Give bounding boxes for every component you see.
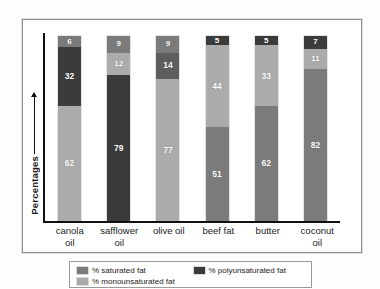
bar-slot: 71182 <box>291 36 340 221</box>
x-axis-label: butter <box>243 225 293 249</box>
bar-slot: 54451 <box>193 36 242 221</box>
legend-label: % monounsaturated fat <box>92 277 175 286</box>
bar-segment[interactable]: 5 <box>206 36 229 45</box>
bar-segment-value: 79 <box>114 144 123 153</box>
bar-segment[interactable]: 79 <box>107 75 130 221</box>
stacked-bar[interactable]: 91477 <box>156 36 179 221</box>
bar-segment[interactable]: 33 <box>255 45 278 106</box>
bar-group: 632629127991477544515336271182 <box>45 36 340 221</box>
x-axis-label: canola oil <box>45 225 95 249</box>
legend-swatch <box>77 267 88 274</box>
bar-slot: 63262 <box>45 36 94 221</box>
bar-segment-value: 9 <box>117 40 121 48</box>
bar-segment-value: 82 <box>311 141 320 150</box>
legend-swatch <box>194 267 205 274</box>
bar-segment[interactable]: 44 <box>206 45 229 126</box>
plot-area: 632629127991477544515336271182 <box>43 33 340 223</box>
x-axis-line <box>43 221 340 223</box>
bar-slot: 91279 <box>94 36 143 221</box>
bar-segment[interactable]: 62 <box>255 106 278 221</box>
bar-segment[interactable]: 7 <box>304 36 327 49</box>
bar-segment-value: 77 <box>163 146 172 155</box>
bar-segment-value: 12 <box>114 60 123 68</box>
x-axis-label: olive oil <box>144 225 194 249</box>
bar-segment[interactable]: 82 <box>304 69 327 221</box>
x-axis-label: coconut oil <box>293 225 343 249</box>
bar-segment-value: 62 <box>262 159 271 168</box>
bar-segment[interactable]: 9 <box>156 36 179 53</box>
legend-item[interactable]: % polyunsaturated fat <box>194 265 305 275</box>
bar-segment-value: 9 <box>166 40 170 48</box>
bar-segment-value: 6 <box>67 38 71 46</box>
y-axis-title-group: Percentages <box>24 40 44 215</box>
stacked-bar[interactable]: 53362 <box>255 36 278 221</box>
bar-segment[interactable]: 5 <box>255 36 278 45</box>
bar-segment[interactable]: 6 <box>58 36 81 47</box>
bar-segment-value: 7 <box>313 38 317 46</box>
bar-slot: 91477 <box>143 36 192 221</box>
bar-segment-value: 51 <box>212 170 221 179</box>
x-axis-label: safflower oil <box>95 225 145 249</box>
bar-segment-value: 44 <box>212 82 221 91</box>
bar-segment-value: 11 <box>311 55 319 63</box>
chart-page: Percentages 6326291279914775445153362711… <box>0 0 380 289</box>
y-axis-title: Percentages <box>29 156 40 215</box>
stacked-bar[interactable]: 63262 <box>58 36 81 221</box>
legend-item[interactable]: % saturated fat <box>77 265 188 275</box>
bar-segment-value: 14 <box>163 61 172 70</box>
bar-segment-value: 33 <box>262 72 271 81</box>
bar-segment-value: 5 <box>215 37 219 45</box>
legend-item[interactable]: % monounsaturated fat <box>77 276 188 286</box>
legend-label: % polyunsaturated fat <box>209 266 286 275</box>
bar-segment[interactable]: 11 <box>304 49 327 69</box>
x-axis-labels: canola oilsafflower oilolive oilbeef fat… <box>45 225 342 249</box>
bar-segment[interactable]: 9 <box>107 36 130 53</box>
x-axis-label: beef fat <box>194 225 244 249</box>
bar-segment[interactable]: 51 <box>206 127 229 221</box>
stacked-bar[interactable]: 71182 <box>304 36 327 221</box>
stacked-bar[interactable]: 91279 <box>107 36 130 221</box>
stacked-bar[interactable]: 54451 <box>206 36 229 221</box>
bar-segment-value: 62 <box>65 159 74 168</box>
legend: % saturated fat% polyunsaturated fat% mo… <box>69 261 312 288</box>
bar-segment[interactable]: 12 <box>107 53 130 75</box>
bar-segment[interactable]: 32 <box>58 47 81 106</box>
bar-segment[interactable]: 62 <box>58 106 81 221</box>
bar-slot: 53362 <box>242 36 291 221</box>
legend-swatch <box>77 278 88 285</box>
up-arrow-icon <box>30 92 39 154</box>
bar-segment-value: 32 <box>65 72 74 81</box>
bar-segment[interactable]: 14 <box>156 53 179 79</box>
legend-label: % saturated fat <box>92 266 146 275</box>
bar-segment-value: 5 <box>264 37 268 45</box>
bar-segment[interactable]: 77 <box>156 79 179 221</box>
